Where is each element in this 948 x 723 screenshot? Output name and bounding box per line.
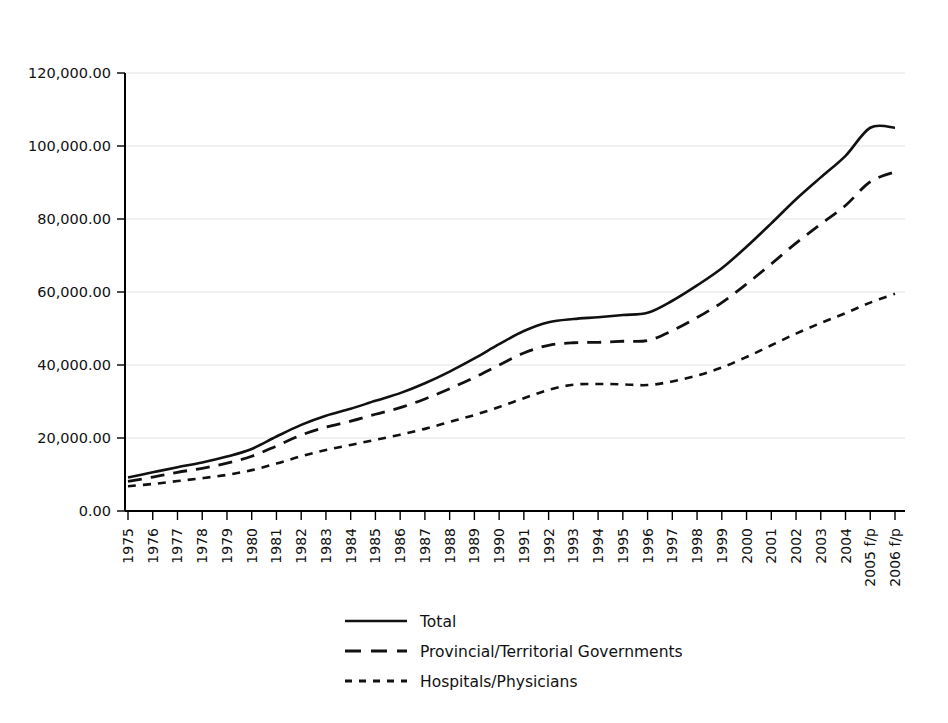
x-tick-label: 1983 bbox=[318, 528, 334, 564]
x-tick-label: 1985 bbox=[367, 528, 383, 564]
line-chart-figure: 120,000.00100,000.0080,000.0060,000.0040… bbox=[0, 0, 948, 723]
x-tick-label: 1997 bbox=[664, 528, 680, 564]
x-tick-label: 1987 bbox=[417, 528, 433, 564]
chart-canvas: 120,000.00100,000.0080,000.0060,000.0040… bbox=[0, 0, 948, 723]
x-tick-label: 1989 bbox=[466, 528, 482, 564]
x-tick-label: 2005 f/p bbox=[862, 528, 878, 587]
x-tick-label: 1992 bbox=[541, 528, 557, 564]
y-tick-label: 120,000.00 bbox=[28, 65, 111, 81]
y-tick-label: 0.00 bbox=[79, 503, 111, 519]
x-tick-label: 1979 bbox=[219, 528, 235, 564]
x-tick-label: 1980 bbox=[244, 528, 260, 564]
x-tick-label: 1982 bbox=[293, 528, 309, 564]
x-tick-label: 1990 bbox=[491, 528, 507, 564]
x-tick-label: 1996 bbox=[640, 528, 656, 564]
y-tick-label: 100,000.00 bbox=[28, 138, 111, 154]
legend-label-3: Hospitals/Physicians bbox=[420, 673, 578, 691]
x-tick-label: 1988 bbox=[442, 528, 458, 564]
x-tick-label: 1981 bbox=[268, 528, 284, 564]
x-tick-label: 1975 bbox=[120, 528, 136, 564]
x-tick-label: 1977 bbox=[169, 528, 185, 564]
chart-background bbox=[0, 0, 948, 723]
x-tick-label: 1993 bbox=[565, 528, 581, 564]
x-tick-label: 1994 bbox=[590, 528, 606, 564]
x-tick-label: 1995 bbox=[615, 528, 631, 564]
legend-label-2: Provincial/Territorial Governments bbox=[420, 643, 683, 661]
y-tick-label: 40,000.00 bbox=[37, 357, 111, 373]
y-tick-label: 60,000.00 bbox=[37, 284, 111, 300]
y-tick-label: 20,000.00 bbox=[37, 430, 111, 446]
x-tick-label: 2006 f/p bbox=[887, 528, 903, 587]
x-tick-label: 2002 bbox=[788, 528, 804, 564]
x-tick-label: 1986 bbox=[392, 528, 408, 564]
x-tick-label: 1998 bbox=[689, 528, 705, 564]
legend-label-1: Total bbox=[419, 613, 456, 631]
x-tick-label: 2001 bbox=[763, 528, 779, 564]
x-tick-label: 1976 bbox=[145, 528, 161, 564]
y-tick-label: 80,000.00 bbox=[37, 211, 111, 227]
x-tick-label: 2003 bbox=[813, 528, 829, 564]
x-tick-label: 1999 bbox=[714, 528, 730, 564]
x-tick-label: 2000 bbox=[739, 528, 755, 564]
x-tick-label: 1991 bbox=[516, 528, 532, 564]
x-tick-label: 1984 bbox=[343, 528, 359, 564]
x-tick-label: 1978 bbox=[194, 528, 210, 564]
x-tick-label: 2004 bbox=[838, 528, 854, 564]
